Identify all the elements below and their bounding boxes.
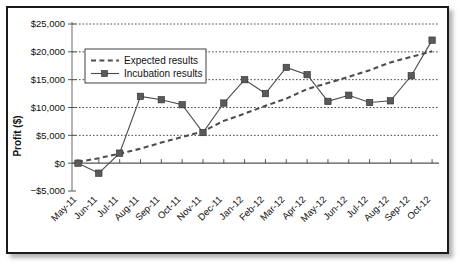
data-point-marker xyxy=(366,99,372,105)
y-tick-label: −$5,000 xyxy=(30,185,65,196)
y-tick-label: $5,000 xyxy=(36,130,65,141)
data-point-marker xyxy=(200,129,206,135)
data-point-marker xyxy=(283,64,289,70)
data-point-marker xyxy=(221,100,227,106)
y-axis-tick-labels: $25,000$20,000$15,000$10,000$5,000$0−$5,… xyxy=(30,18,76,196)
data-point-marker xyxy=(325,98,331,104)
x-category-label: Jun-11 xyxy=(71,194,99,222)
data-point-marker xyxy=(262,90,268,96)
chart-figure: $25,000$20,000$15,000$10,000$5,000$0−$5,… xyxy=(6,6,449,254)
legend-marker-incubation-results xyxy=(102,71,108,77)
y-tick-label: $15,000 xyxy=(31,74,65,85)
legend-label-expected-results: Expected results xyxy=(124,55,198,66)
x-axis-category-labels: May-11Jun-11Jul-11Aug-11Sep-11Oct-11Nov-… xyxy=(49,194,433,224)
legend-label-incubation-results: Incubation results xyxy=(124,68,202,79)
y-axis-title-text: Profit ($) xyxy=(12,115,23,156)
y-tick-label: $20,000 xyxy=(31,46,65,57)
data-point-marker xyxy=(241,76,247,82)
data-point-marker xyxy=(408,73,414,79)
data-point-marker xyxy=(387,98,393,104)
chart-legend: Expected results Incubation results xyxy=(85,49,206,83)
y-tick-label: $25,000 xyxy=(31,18,65,29)
x-category-label: Oct-12 xyxy=(405,194,433,222)
y-tick-label: $0 xyxy=(54,158,65,169)
x-category-label: Jun-12 xyxy=(321,194,349,222)
data-point-marker xyxy=(429,37,435,43)
data-point-marker xyxy=(75,160,81,166)
data-point-marker xyxy=(137,93,143,99)
axis-lines xyxy=(72,22,439,191)
x-category-label: May-11 xyxy=(49,194,79,224)
data-point-marker xyxy=(346,92,352,98)
y-axis-title: Profit ($) xyxy=(12,115,23,156)
profit-line-chart: $25,000$20,000$15,000$10,000$5,000$0−$5,… xyxy=(8,8,447,252)
data-point-marker xyxy=(158,97,164,103)
data-point-marker xyxy=(179,102,185,108)
data-point-marker xyxy=(96,170,102,176)
y-tick-label: $10,000 xyxy=(31,102,65,113)
data-point-marker xyxy=(116,150,122,156)
data-point-marker xyxy=(304,71,310,77)
